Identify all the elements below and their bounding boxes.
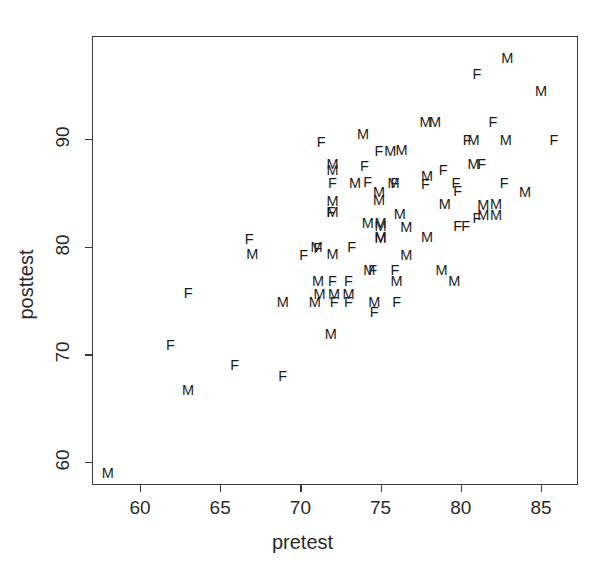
data-point: M bbox=[421, 230, 433, 245]
data-point: M bbox=[373, 193, 385, 208]
data-point: M bbox=[535, 83, 547, 98]
data-point: F bbox=[360, 159, 369, 174]
y-axis-tick-label: 80 bbox=[48, 234, 78, 256]
y-axis-tick-label: 90 bbox=[48, 126, 78, 148]
data-point: F bbox=[477, 157, 486, 172]
data-point: M bbox=[439, 196, 451, 211]
data-point: F bbox=[391, 263, 400, 278]
data-point: M bbox=[395, 143, 407, 158]
data-point: M bbox=[436, 263, 448, 278]
data-point: F bbox=[328, 274, 337, 289]
data-point: F bbox=[453, 183, 462, 198]
data-point: F bbox=[368, 263, 377, 278]
data-point: M bbox=[357, 126, 369, 141]
data-point: M bbox=[362, 216, 374, 231]
data-point: F bbox=[488, 115, 497, 130]
plot-data-area: MMMMMMMMMMMMMMMMMMMMMMMMMMMMMMMMMMMMMMMM… bbox=[92, 36, 578, 485]
x-axis-tick-label: 75 bbox=[370, 497, 391, 519]
data-point: F bbox=[461, 219, 470, 234]
y-axis-tick-label: 60 bbox=[48, 449, 78, 471]
data-point: M bbox=[375, 231, 387, 246]
data-point: F bbox=[317, 135, 326, 150]
y-axis-tick bbox=[85, 139, 92, 140]
data-point: F bbox=[230, 358, 239, 373]
data-point: F bbox=[472, 210, 481, 225]
x-axis-tick-label: 80 bbox=[450, 497, 471, 519]
data-point: M bbox=[500, 133, 512, 148]
data-point: F bbox=[549, 133, 558, 148]
data-point: F bbox=[299, 248, 308, 263]
y-axis-tick-label: 70 bbox=[48, 341, 78, 363]
data-point: M bbox=[429, 115, 441, 130]
data-point: M bbox=[400, 248, 412, 263]
data-point: F bbox=[314, 240, 323, 255]
data-point: F bbox=[330, 294, 339, 309]
data-point: F bbox=[344, 274, 353, 289]
x-axis-tick bbox=[140, 485, 141, 492]
x-axis-tick bbox=[220, 485, 221, 492]
x-axis-tick-label: 85 bbox=[530, 497, 551, 519]
data-point: F bbox=[326, 205, 335, 220]
data-point: M bbox=[326, 247, 338, 262]
data-point: F bbox=[463, 133, 472, 148]
data-point: M bbox=[519, 185, 531, 200]
data-point: F bbox=[500, 176, 509, 191]
data-point: M bbox=[400, 220, 412, 235]
data-point: M bbox=[349, 176, 361, 191]
data-point: F bbox=[245, 232, 254, 247]
x-axis-tick bbox=[461, 485, 462, 492]
x-axis-tick bbox=[381, 485, 382, 492]
y-axis-title: posttest bbox=[6, 0, 46, 569]
y-axis-tick bbox=[85, 354, 92, 355]
y-axis-tick bbox=[85, 462, 92, 463]
data-point: M bbox=[448, 274, 460, 289]
data-point: F bbox=[166, 337, 175, 352]
data-point: F bbox=[392, 294, 401, 309]
data-point: F bbox=[391, 176, 400, 191]
scatter-plot-figure: MMMMMMMMMMMMMMMMMMMMMMMMMMMMMMMMMMMMMMMM… bbox=[0, 0, 605, 569]
data-point: F bbox=[344, 294, 353, 309]
x-axis-tick-label: 70 bbox=[290, 497, 311, 519]
y-axis-tick-label-text: 90 bbox=[52, 126, 74, 147]
x-axis-tick bbox=[300, 485, 301, 492]
data-point: M bbox=[490, 208, 502, 223]
data-point: F bbox=[472, 67, 481, 82]
x-axis-tick-label: 65 bbox=[210, 497, 231, 519]
data-point: F bbox=[421, 177, 430, 192]
data-point: M bbox=[182, 383, 194, 398]
data-point: M bbox=[501, 51, 513, 66]
x-axis-title: pretest bbox=[0, 531, 605, 554]
data-point: M bbox=[325, 327, 337, 342]
y-axis-title-text: posttest bbox=[15, 249, 38, 319]
data-point: M bbox=[314, 287, 326, 302]
data-point: F bbox=[439, 163, 448, 178]
data-point: F bbox=[370, 305, 379, 320]
data-point: F bbox=[375, 144, 384, 159]
data-point: F bbox=[184, 286, 193, 301]
data-point: M bbox=[102, 466, 114, 481]
y-axis-tick-label-text: 60 bbox=[52, 449, 74, 470]
data-point: M bbox=[246, 247, 258, 262]
y-axis-tick-label-text: 70 bbox=[52, 342, 74, 363]
data-point: F bbox=[278, 369, 287, 384]
data-point: M bbox=[277, 294, 289, 309]
y-axis-tick bbox=[85, 247, 92, 248]
y-axis-tick-label-text: 80 bbox=[52, 234, 74, 255]
data-point: F bbox=[328, 176, 337, 191]
data-point: F bbox=[363, 175, 372, 190]
x-axis-tick bbox=[541, 485, 542, 492]
x-axis-tick-label: 60 bbox=[129, 497, 150, 519]
data-point: F bbox=[347, 239, 356, 254]
